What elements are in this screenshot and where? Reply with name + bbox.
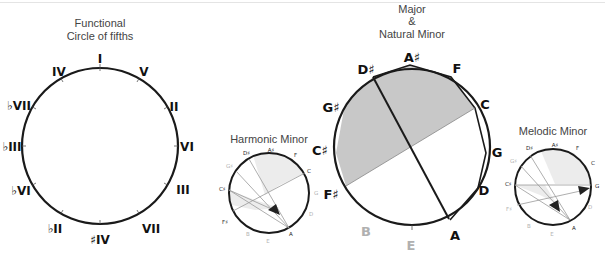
melodic-label-g-sharp: G♯ [510,158,517,164]
harmonic-shade-upper [253,153,305,195]
functional-title-line2: Circle of fifths [67,30,134,42]
major-shaded-region [336,65,475,186]
functional-label-VII: VII [142,222,160,236]
circle-of-fifths-diagram: Functional Circle of fifths I V II VI II… [0,0,605,253]
melodic-minor-group: Melodic Minor A♯ F C G D A E B F♯ C♯ G♯ … [505,125,599,237]
harmonic-label-g-sharp: G♯ [226,163,233,169]
functional-circle [22,68,178,224]
melodic-minor-title: Melodic Minor [519,125,588,137]
melodic-label-c-sharp: C♯ [505,181,512,187]
harmonic-minor-group: Harmonic Minor A♯ F C G D A E B F♯ C♯ G♯… [219,133,318,244]
harmonic-label-a: A [289,231,293,237]
major-label-g: G [492,145,503,160]
functional-label-sharp-IV: ♯IV [90,233,110,247]
major-label-e: E [407,238,416,253]
melodic-label-g: G [595,183,599,189]
major-natural-minor-group: Major & Natural Minor A♯ F C G D A E B F… [312,3,502,253]
harmonic-label-d: D [309,211,313,217]
functional-circle-group: Functional Circle of fifths I V II VI II… [2,17,193,247]
functional-label-III: III [176,183,189,197]
melodic-shade-upper [540,148,590,184]
major-label-a-sharp: A♯ [404,50,420,65]
major-label-c-sharp: C♯ [312,143,328,158]
major-label-b: B [361,224,371,239]
melodic-label-d-sharp: D♯ [526,145,533,151]
major-label-c: C [480,97,490,112]
major-label-g-sharp: G♯ [323,100,340,115]
melodic-label-f: F [576,145,579,151]
functional-label-I: I [98,52,102,66]
harmonic-label-e: E [266,238,270,244]
harmonic-label-b: B [246,231,250,237]
melodic-label-e: E [550,231,554,237]
major-title-line1: Major [398,3,426,15]
functional-label-VI: VI [180,140,194,154]
harmonic-label-c: C [307,168,311,174]
functional-label-flat-VII: ♭VII [7,99,31,113]
functional-label-flat-VI: ♭VI [11,184,30,198]
functional-ticks [22,64,178,224]
major-title-line2: & [408,15,416,27]
functional-label-V: V [139,65,149,79]
functional-title-line1: Functional [75,17,126,29]
functional-label-IV: IV [52,65,66,79]
major-label-d-sharp: D♯ [357,62,374,77]
harmonic-minor-title: Harmonic Minor [230,133,308,145]
melodic-arrow-right-icon [578,186,590,195]
functional-label-flat-III: ♭III [2,140,21,154]
melodic-label-b: B [527,223,531,229]
harmonic-label-g: G [314,190,318,196]
harmonic-label-d-sharp: D♯ [243,150,250,156]
melodic-label-f-sharp: F♯ [506,206,512,212]
harmonic-label-a-sharp: A♯ [268,147,275,153]
major-title-line3: Natural Minor [379,28,445,40]
functional-label-flat-II: ♭II [48,222,63,236]
melodic-label-a: A [572,225,576,231]
major-label-f-sharp: F♯ [323,187,338,202]
melodic-label-a-sharp: A♯ [552,142,559,148]
melodic-label-d: D [588,204,592,210]
major-label-a: A [450,228,460,243]
harmonic-label-f: F [294,152,297,158]
harmonic-label-c-sharp: C♯ [219,186,226,192]
melodic-label-c: C [591,160,595,166]
major-label-d: D [479,183,490,198]
major-label-f: F [453,61,462,76]
harmonic-label-f-sharp: F♯ [222,219,228,225]
functional-label-II: II [170,100,179,114]
